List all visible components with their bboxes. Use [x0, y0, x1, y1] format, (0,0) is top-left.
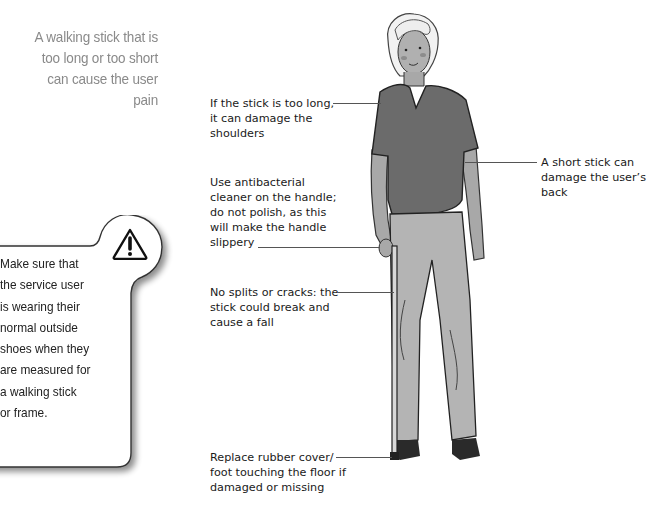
annotation-line: cause a fall — [210, 315, 338, 330]
callout-text: Make sure that the service user is weari… — [0, 253, 110, 423]
annotation-line: Use antibacterial — [210, 175, 336, 190]
annotation-line: shoulders — [210, 126, 334, 141]
trousers — [390, 212, 476, 442]
callout-line: shoes when they — [0, 338, 110, 359]
callout-line: or frame. — [0, 402, 110, 423]
annotation-line: cleaner on the handle; — [210, 190, 336, 205]
annotation-line: stick could break and — [210, 300, 338, 315]
annotation-line: If the stick is too long, — [210, 96, 334, 111]
annotation-line: do not polish, as this — [210, 205, 336, 220]
intro-line: A walking stick that is — [34, 26, 158, 47]
annotation-line: Replace rubber cover/ — [210, 450, 346, 465]
annotation-line: foot touching the floor if — [210, 465, 346, 480]
annotation-rubber-foot: Replace rubber cover/ foot touching the … — [210, 450, 346, 495]
annotation-line: it can damage the — [210, 111, 334, 126]
callout-line: the service user — [0, 274, 110, 295]
person-with-walking-stick-illustration — [330, 0, 530, 470]
intro-text: A walking stick that is too long or too … — [34, 26, 158, 110]
leader-line-rubber-foot — [336, 457, 392, 458]
warning-callout: Make sure that the service user is weari… — [0, 215, 190, 485]
leader-line-splits — [338, 292, 394, 293]
callout-line: is wearing their — [0, 296, 110, 317]
callout-line: are measured for — [0, 359, 110, 380]
intro-line: too long or too short — [34, 47, 158, 68]
right-shoe — [452, 438, 480, 460]
intro-line: can cause the user — [34, 68, 158, 89]
leader-line-too-long — [333, 103, 381, 104]
leader-line-cleaner — [258, 247, 380, 248]
annotation-too-short: A short stick can damage the user’s back — [541, 155, 646, 200]
head — [388, 14, 439, 86]
annotation-line: will make the handle — [210, 220, 336, 235]
callout-line: Make sure that — [0, 253, 110, 274]
callout-line: a walking stick — [0, 381, 110, 402]
hand — [379, 239, 393, 257]
leader-line-too-short — [465, 162, 537, 163]
annotation-cleaner: Use antibacterial cleaner on the handle;… — [210, 175, 336, 250]
callout-line: normal outside — [0, 317, 110, 338]
annotation-line: damage the user’s — [541, 170, 646, 185]
annotation-too-long: If the stick is too long, it can damage … — [210, 96, 334, 141]
annotation-line: A short stick can — [541, 155, 646, 170]
rubber-foot — [390, 452, 399, 460]
annotation-line: No splits or cracks: the — [210, 285, 338, 300]
shirt — [372, 85, 478, 215]
walking-stick — [392, 246, 397, 458]
annotation-line: back — [541, 185, 646, 200]
warning-triangle-icon — [112, 228, 148, 260]
annotation-splits: No splits or cracks: the stick could bre… — [210, 285, 338, 330]
annotation-line: damaged or missing — [210, 480, 346, 495]
intro-line: pain — [34, 89, 158, 110]
